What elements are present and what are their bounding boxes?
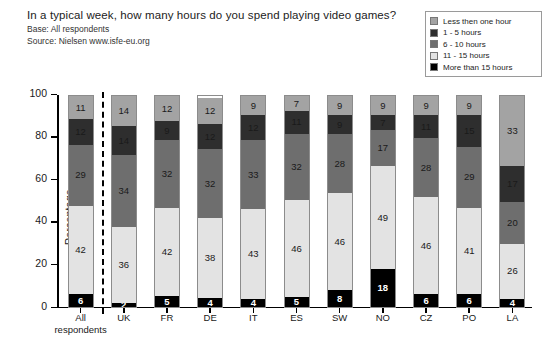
bar-group[interactable]: 438321212DE bbox=[197, 95, 223, 308]
legend-item[interactable]: 6 - 10 hours bbox=[430, 39, 537, 50]
bar-segment-value: 29 bbox=[464, 172, 475, 182]
legend-item-label: 6 - 10 hours bbox=[443, 40, 486, 49]
bar-segment[interactable]: 4 bbox=[241, 299, 265, 307]
bar-segment[interactable]: 49 bbox=[371, 166, 395, 269]
stacked-bar[interactable]: 438321212 bbox=[197, 95, 223, 308]
bar-segment[interactable]: 32 bbox=[155, 140, 179, 208]
stacked-bar[interactable]: 8462899 bbox=[327, 95, 353, 308]
stacked-bar[interactable]: 54632117 bbox=[284, 95, 310, 308]
bar-segment[interactable]: 2 bbox=[112, 303, 136, 307]
bar-segment[interactable]: 7 bbox=[285, 96, 309, 111]
bar-segment[interactable]: 17 bbox=[371, 130, 395, 166]
bar-segment[interactable]: 41 bbox=[457, 208, 481, 295]
bar-segment[interactable]: 14 bbox=[112, 126, 136, 156]
bar-segment[interactable]: 34 bbox=[112, 155, 136, 227]
bar-segment[interactable]: 29 bbox=[69, 145, 93, 206]
legend-item[interactable]: 11 - 15 hours bbox=[430, 50, 537, 61]
bar-segment[interactable]: 32 bbox=[198, 149, 222, 217]
bar-segment[interactable]: 42 bbox=[155, 208, 179, 297]
bar-segment[interactable]: 5 bbox=[285, 297, 309, 307]
bar-segment[interactable]: 33 bbox=[241, 140, 265, 209]
bar-group[interactable]: 426201733LA bbox=[499, 95, 525, 308]
bar-segment-value: 42 bbox=[75, 245, 86, 255]
bar-segment[interactable]: 38 bbox=[198, 218, 222, 299]
bar-segment[interactable]: 12 bbox=[155, 96, 179, 121]
stacked-bar[interactable]: 64129159 bbox=[456, 95, 482, 308]
stacked-bar[interactable]: 44333129 bbox=[240, 95, 266, 308]
stacked-bar[interactable]: 642291211 bbox=[68, 95, 94, 308]
bar-segment[interactable]: 46 bbox=[414, 197, 438, 294]
bar-segment-value: 9 bbox=[380, 101, 385, 111]
bar-segment[interactable]: 4 bbox=[500, 299, 524, 307]
bar-segment[interactable]: 6 bbox=[414, 294, 438, 307]
bar-segment[interactable]: 6 bbox=[69, 294, 93, 307]
stacked-bar[interactable]: 18491779 bbox=[370, 95, 396, 308]
bar-segment[interactable]: 11 bbox=[285, 111, 309, 134]
bar-segment[interactable]: 26 bbox=[500, 244, 524, 299]
chart-plot-area: Percentage 020406080100 642291211Allresp… bbox=[57, 95, 532, 308]
bar-segment[interactable]: 12 bbox=[69, 119, 93, 144]
bar-segment[interactable]: 15 bbox=[457, 115, 481, 147]
bar-segment[interactable]: 5 bbox=[155, 296, 179, 307]
bar-segment-value: 12 bbox=[205, 106, 216, 116]
bar-segment[interactable]: 46 bbox=[285, 200, 309, 296]
bar-group[interactable]: 64129159PO bbox=[456, 95, 482, 308]
stacked-bar[interactable]: 426201733 bbox=[499, 95, 525, 308]
bar-segment[interactable]: 8 bbox=[328, 290, 352, 307]
bar-segment[interactable]: 20 bbox=[500, 202, 524, 244]
bar-segment[interactable]: 46 bbox=[328, 193, 352, 290]
bar-segment[interactable]: 18 bbox=[371, 269, 395, 307]
bar-group[interactable]: 236341414UK bbox=[111, 95, 137, 308]
bar-segment-value: 42 bbox=[162, 247, 173, 257]
x-axis-label: CZ bbox=[420, 312, 433, 323]
bar-segment[interactable]: 9 bbox=[328, 115, 352, 134]
bar-segment[interactable]: 9 bbox=[457, 96, 481, 115]
bar-segment[interactable]: 9 bbox=[155, 121, 179, 140]
bar-segment[interactable]: 11 bbox=[414, 115, 438, 138]
stacked-bar[interactable]: 54232912 bbox=[154, 95, 180, 308]
bar-group[interactable]: 54632117ES bbox=[284, 95, 310, 308]
x-axis-label: LA bbox=[507, 312, 519, 323]
bar-group[interactable]: 54232912FR bbox=[154, 95, 180, 308]
bar-group[interactable]: 64628119CZ bbox=[413, 95, 439, 308]
bar-segment[interactable]: 14 bbox=[112, 96, 136, 126]
legend-item-label: More than 15 hours bbox=[443, 63, 512, 72]
bar-segment[interactable]: 32 bbox=[285, 134, 309, 201]
bar-segment[interactable]: 12 bbox=[198, 124, 222, 150]
legend-item[interactable]: 1 - 5 hours bbox=[430, 27, 537, 38]
bar-group[interactable]: 44333129IT bbox=[240, 95, 266, 308]
bar-segment[interactable]: 6 bbox=[457, 294, 481, 307]
bar-segment[interactable]: 12 bbox=[198, 98, 222, 124]
bar-segment[interactable]: 43 bbox=[241, 209, 265, 299]
bar-segment-value: 36 bbox=[118, 260, 129, 270]
bar-segment[interactable]: 28 bbox=[328, 134, 352, 193]
bar-segment-value: 15 bbox=[464, 126, 475, 136]
bar-segment[interactable]: 9 bbox=[414, 96, 438, 115]
bar-segment[interactable]: 36 bbox=[112, 227, 136, 303]
bar-segment[interactable]: 11 bbox=[69, 96, 93, 119]
bar-segment[interactable]: 4 bbox=[198, 298, 222, 307]
bar-segment-value: 11 bbox=[76, 103, 86, 113]
legend-item[interactable]: More than 15 hours bbox=[430, 62, 537, 73]
stacked-bar[interactable]: 64628119 bbox=[413, 95, 439, 308]
stacked-bars: 642291211Allrespondents236341414UK542329… bbox=[57, 95, 532, 308]
bar-segment[interactable]: 17 bbox=[500, 166, 524, 202]
bar-segment[interactable]: 9 bbox=[241, 96, 265, 115]
stacked-bar[interactable]: 236341414 bbox=[111, 95, 137, 308]
bar-segment[interactable]: 7 bbox=[371, 115, 395, 130]
bar-segment[interactable]: 33 bbox=[500, 96, 524, 166]
bar-segment-value: 9 bbox=[337, 101, 342, 111]
bar-group[interactable]: 642291211Allrespondents bbox=[68, 95, 94, 308]
bar-segment[interactable]: 12 bbox=[241, 115, 265, 140]
bar-segment-value: 5 bbox=[164, 297, 169, 307]
legend-item[interactable]: Less then one hour bbox=[430, 16, 537, 27]
bar-group[interactable]: 18491779NO bbox=[370, 95, 396, 308]
bar-segment-value: 12 bbox=[205, 132, 216, 142]
bar-segment[interactable]: 9 bbox=[371, 96, 395, 115]
legend-item-label: Less then one hour bbox=[443, 17, 512, 26]
bar-group[interactable]: 8462899SW bbox=[327, 95, 353, 308]
bar-segment[interactable]: 42 bbox=[69, 206, 93, 295]
bar-segment[interactable]: 28 bbox=[414, 138, 438, 197]
bar-segment[interactable]: 9 bbox=[328, 96, 352, 115]
bar-segment[interactable]: 29 bbox=[457, 147, 481, 208]
